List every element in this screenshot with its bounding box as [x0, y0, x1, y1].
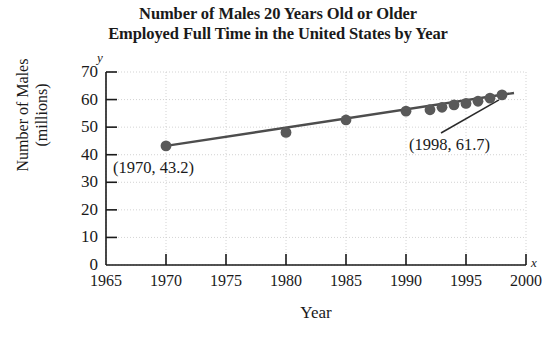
x-tick-label: 1965 [78, 273, 134, 289]
chart-figure: Number of Males 20 Years Old or Older Em… [0, 0, 556, 337]
annotation-last-point: (1998, 61.7) [409, 135, 490, 155]
x-tick-label: 1985 [318, 273, 374, 289]
y-tick-label: 10 [64, 228, 98, 245]
y-tick-label: 60 [64, 91, 98, 108]
x-tick-label: 1995 [438, 273, 494, 289]
y-tick-label: 20 [64, 201, 98, 218]
x-tick-label: 1970 [138, 273, 194, 289]
y-tick-label: 40 [64, 146, 98, 163]
x-tick-label: 1975 [198, 273, 254, 289]
x-tick-label: 1980 [258, 273, 314, 289]
y-tick-label: 50 [64, 118, 98, 135]
y-tick-label: 0 [64, 256, 98, 273]
annotation-first-point: (1970, 43.2) [113, 158, 194, 178]
x-tick-label: 1990 [378, 273, 434, 289]
x-tick-label: 2000 [498, 273, 554, 289]
y-tick-label: 30 [64, 173, 98, 190]
y-tick-label: 70 [64, 63, 98, 80]
